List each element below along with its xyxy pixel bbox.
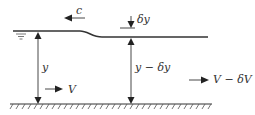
celerity-label: c: [76, 4, 82, 17]
downstream-depth-label: y − δy: [134, 61, 171, 74]
upstream-depth-dimension: [35, 32, 42, 104]
downstream-depth-dimension: [128, 38, 135, 104]
arrow-left-icon: [64, 15, 72, 22]
depth-drop-marker: [120, 16, 135, 28]
channel-bed: [10, 104, 212, 109]
upstream-velocity-label: V: [68, 83, 77, 96]
arrow-up-icon: [128, 38, 135, 45]
upstream-velocity-arrow: [45, 86, 63, 93]
arrow-right-icon: [201, 77, 209, 84]
water-surface: [13, 31, 208, 37]
diagram-svg: c δy y y − δy V V − δV: [0, 0, 255, 115]
arrow-up-icon: [35, 32, 42, 39]
arrow-right-icon: [55, 86, 63, 93]
surge-wave-diagram: c δy y y − δy V V − δV: [0, 0, 255, 115]
upstream-depth-label: y: [41, 61, 49, 74]
arrow-down-icon: [35, 97, 42, 104]
downstream-velocity-arrow: [189, 77, 209, 84]
downstream-velocity-label: V − δV: [213, 73, 253, 86]
arrow-down-icon: [128, 21, 135, 28]
depth-drop-label: δy: [137, 13, 151, 26]
arrow-down-icon: [128, 97, 135, 104]
free-surface-symbol-icon: [16, 34, 26, 39]
